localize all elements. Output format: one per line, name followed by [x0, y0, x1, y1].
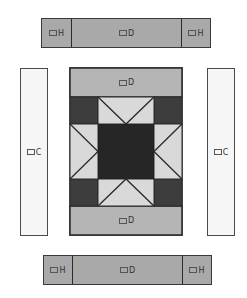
- piece-label: C: [223, 148, 229, 157]
- corner-square-top-left: [70, 97, 98, 124]
- left-side-strip: C: [20, 68, 48, 236]
- piece-marker-icon: [188, 30, 196, 36]
- piece-label: C: [36, 148, 42, 157]
- flying-geese-top: [98, 97, 154, 124]
- piece-label: H: [198, 266, 204, 275]
- piece-label: D: [128, 78, 134, 87]
- flying-geese-right: [154, 124, 182, 179]
- piece-marker-icon: [119, 30, 127, 36]
- piece-label: H: [58, 29, 64, 38]
- top-strip-left-piece: H: [42, 19, 71, 47]
- piece-marker-icon: [27, 149, 35, 155]
- right-side-strip: C: [207, 68, 235, 236]
- piece-marker-icon: [120, 267, 128, 273]
- bottom-strip-middle-piece: D: [72, 256, 182, 284]
- piece-marker-icon: [189, 267, 197, 273]
- corner-square-top-right: [154, 97, 182, 124]
- piece-label: D: [129, 266, 135, 275]
- bottom-strip-left-piece: H: [44, 256, 72, 284]
- corner-square-bottom-right: [154, 179, 182, 206]
- piece-label: H: [197, 29, 203, 38]
- piece-label: H: [59, 266, 65, 275]
- piece-marker-icon: [49, 30, 57, 36]
- piece-marker-icon: [119, 80, 127, 86]
- top-strip-middle-piece: D: [71, 19, 181, 47]
- corner-square-bottom-left: [70, 179, 98, 206]
- piece-label: D: [128, 29, 134, 38]
- top-border-strip: H D H: [41, 18, 211, 48]
- piece-marker-icon: [214, 149, 222, 155]
- top-strip-right-piece: H: [181, 19, 210, 47]
- flying-geese-left: [70, 124, 98, 179]
- top-band-label: D: [70, 68, 183, 97]
- bottom-strip-right-piece: H: [182, 256, 211, 284]
- bottom-band-label: D: [70, 206, 183, 235]
- piece-label: D: [128, 216, 134, 225]
- piece-marker-icon: [50, 267, 58, 273]
- bottom-border-strip: H D H: [43, 255, 212, 285]
- flying-geese-bottom: [98, 179, 154, 206]
- piece-marker-icon: [119, 218, 127, 224]
- center-square: [98, 124, 154, 179]
